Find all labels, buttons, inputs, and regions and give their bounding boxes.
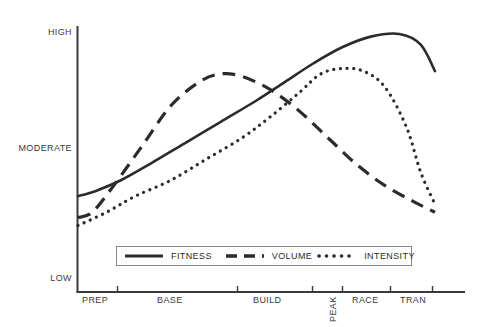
chart-series-group <box>78 34 435 226</box>
legend-label-volume: VOLUME <box>272 251 312 261</box>
y-axis-label-low: LOW <box>12 273 72 283</box>
series-line-fitness <box>78 34 435 197</box>
series-line-intensity <box>78 68 435 225</box>
x-axis-label-tran: TRAN <box>400 295 426 305</box>
y-axis-label-high: HIGH <box>12 27 72 37</box>
x-axis-label-base: BASE <box>157 295 183 305</box>
legend-swatch-solid-icon <box>124 251 164 261</box>
legend-swatch-dotted-icon <box>317 251 357 261</box>
chart-plot-area <box>0 0 482 327</box>
series-line-volume <box>78 74 435 218</box>
legend-entry-fitness[interactable]: FITNESS <box>124 246 225 266</box>
y-axis-label-moderate: MODERATE <box>2 143 72 153</box>
x-axis-label-race: RACE <box>352 295 379 305</box>
legend-label-fitness: FITNESS <box>171 251 212 261</box>
x-axis-label-prep: PREP <box>82 295 108 305</box>
training-periodization-chart: HIGH MODERATE LOW PREP BASE BUILD PEAK R… <box>0 0 482 327</box>
legend-swatch-dashed-icon <box>225 251 265 261</box>
legend-entry-volume[interactable]: VOLUME <box>225 246 317 266</box>
x-axis-label-build: BUILD <box>253 295 282 305</box>
chart-legend: FITNESS VOLUME INTENSITY <box>116 246 412 266</box>
legend-entry-intensity[interactable]: INTENSITY <box>317 246 404 266</box>
legend-label-intensity: INTENSITY <box>364 251 415 261</box>
x-axis-label-peak: PEAK <box>328 296 338 322</box>
